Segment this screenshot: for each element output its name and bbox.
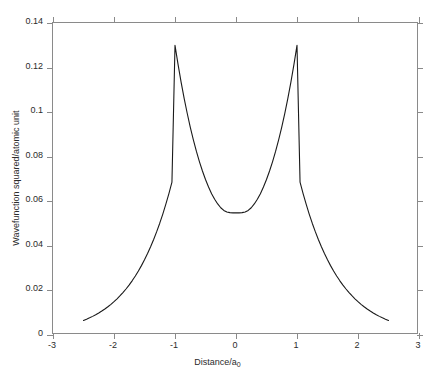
x-tick-4 <box>297 333 298 339</box>
y-tick-4 <box>47 157 53 158</box>
x-tick-label-6: 3 <box>398 341 435 350</box>
y-tick-right-7 <box>417 23 423 24</box>
y-tick-label-5: 0.1 <box>30 106 43 115</box>
y-tick-label-6: 0.12 <box>25 62 43 71</box>
x-axis-title-text: Distance/a <box>194 357 237 367</box>
x-axis-title-subscript: 0 <box>237 361 241 368</box>
x-tick-top-2 <box>175 17 176 23</box>
y-tick-right-3 <box>417 201 423 202</box>
x-tick-top-1 <box>114 17 115 23</box>
y-tick-label-1: 0.02 <box>25 284 43 293</box>
y-tick-6 <box>47 68 53 69</box>
data-curve-svg <box>53 23 419 335</box>
y-tick-right-5 <box>417 112 423 113</box>
y-tick-3 <box>47 201 53 202</box>
x-tick-top-4 <box>297 17 298 23</box>
y-tick-right-4 <box>417 157 423 158</box>
x-tick-top-6 <box>419 17 420 23</box>
y-tick-right-6 <box>417 68 423 69</box>
x-tick-top-0 <box>53 17 54 23</box>
x-tick-5 <box>358 333 359 339</box>
x-tick-label-1: -2 <box>93 341 133 350</box>
x-tick-label-2: -1 <box>154 341 194 350</box>
plot-area <box>52 22 418 334</box>
wavefunction-squared-curve <box>84 45 389 320</box>
y-tick-label-7: 0.14 <box>25 17 43 26</box>
y-tick-2 <box>47 246 53 247</box>
y-tick-right-0 <box>417 335 423 336</box>
x-tick-6 <box>419 333 420 339</box>
y-tick-label-3: 0.06 <box>25 195 43 204</box>
x-tick-label-3: 0 <box>215 341 255 350</box>
y-tick-7 <box>47 23 53 24</box>
x-tick-3 <box>236 333 237 339</box>
y-tick-5 <box>47 112 53 113</box>
y-tick-right-2 <box>417 246 423 247</box>
x-tick-top-3 <box>236 17 237 23</box>
x-tick-0 <box>53 333 54 339</box>
x-axis-title: Distance/a0 <box>0 358 435 367</box>
y-axis-title: Wavefunction squared/atomic unit <box>12 110 21 245</box>
x-tick-1 <box>114 333 115 339</box>
x-tick-label-4: 1 <box>276 341 316 350</box>
y-tick-label-4: 0.08 <box>25 151 43 160</box>
figure-canvas: 00.020.040.060.080.10.120.14 -3-2-10123 … <box>0 0 435 381</box>
y-tick-label-0: 0 <box>38 329 43 338</box>
y-tick-label-2: 0.04 <box>25 240 43 249</box>
y-tick-right-1 <box>417 290 423 291</box>
x-tick-top-5 <box>358 17 359 23</box>
x-tick-label-0: -3 <box>32 341 72 350</box>
x-tick-2 <box>175 333 176 339</box>
x-tick-label-5: 2 <box>337 341 377 350</box>
y-tick-1 <box>47 290 53 291</box>
